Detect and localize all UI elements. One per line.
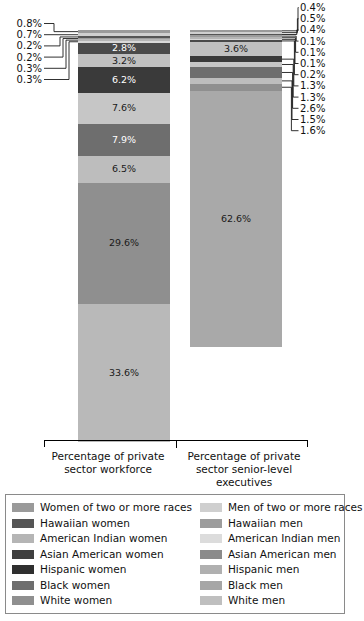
- bar-segment[interactable]: 3.2%: [78, 54, 170, 67]
- segment-value-label: 33.6%: [78, 368, 170, 378]
- segment-value-label: 3.6%: [190, 44, 282, 54]
- legend-swatch: [12, 565, 34, 574]
- plot-area: 2.8%3.2%6.2%7.6%7.9%6.5%29.6%33.6% 3.6%6…: [0, 0, 350, 450]
- segment-value-label: 29.6%: [78, 238, 170, 248]
- bar-segment[interactable]: 3.6%: [190, 42, 282, 57]
- bar-workforce[interactable]: 2.8%3.2%6.2%7.6%7.9%6.5%29.6%33.6%: [78, 30, 170, 440]
- xcat0-line1: Percentage of private: [52, 450, 165, 462]
- leader-line: [282, 41, 299, 75]
- legend-label: Women of two or more races: [40, 502, 192, 513]
- legend-label: American Indian men: [228, 533, 340, 544]
- legend-item[interactable]: Asian American women: [12, 547, 192, 563]
- callout-value-label: 0.2%: [0, 52, 42, 63]
- legend-column-women: Women of two or more racesHawaiian women…: [6, 500, 194, 613]
- leader-line: [282, 87, 299, 130]
- leader-line: [282, 39, 299, 63]
- legend-label: Black men: [228, 580, 283, 591]
- legend-label: American Indian women: [40, 533, 167, 544]
- bar-segment[interactable]: 2.8%: [78, 43, 170, 54]
- leader-line: [282, 19, 299, 33]
- bar-segment[interactable]: [190, 67, 282, 78]
- legend-swatch: [12, 596, 34, 605]
- legend-item[interactable]: White men: [200, 593, 363, 609]
- callout-value-label: 1.3%: [300, 92, 325, 103]
- legend-swatch: [12, 581, 34, 590]
- legend-swatch: [200, 550, 222, 559]
- legend-item[interactable]: Women of two or more races: [12, 500, 192, 516]
- legend-label: Hispanic women: [40, 564, 126, 575]
- legend-label: Asian American men: [228, 549, 337, 560]
- callout-value-label: 0.3%: [0, 74, 42, 85]
- callout-value-label: 0.7%: [0, 29, 42, 40]
- leader-line: [44, 37, 78, 46]
- segment-value-label: 2.8%: [78, 43, 170, 53]
- legend-item[interactable]: Hawaiian women: [12, 516, 192, 532]
- axis-tick-middle: [176, 441, 177, 448]
- legend-swatch: [12, 503, 34, 512]
- legend-label: Men of two or more races: [228, 502, 363, 513]
- segment-value-label: 3.2%: [78, 56, 170, 66]
- bar-segment[interactable]: 33.6%: [78, 304, 170, 442]
- leader-line: [282, 59, 299, 86]
- legend-item[interactable]: Men of two or more races: [200, 500, 363, 516]
- legend-swatch: [200, 519, 222, 528]
- legend-column-men: Men of two or more racesHawaiian menAmer…: [194, 500, 364, 613]
- segment-value-label: 7.6%: [78, 103, 170, 113]
- segment-value-label: 7.9%: [78, 135, 170, 145]
- bar-segment[interactable]: 29.6%: [78, 183, 170, 304]
- legend-item[interactable]: Black men: [200, 578, 363, 594]
- bar-segment[interactable]: [190, 84, 282, 91]
- callout-value-label: 0.2%: [0, 40, 42, 51]
- callout-value-label: 0.5%: [300, 13, 325, 24]
- legend-item[interactable]: American Indian women: [12, 531, 192, 547]
- callout-value-label: 1.3%: [300, 80, 325, 91]
- legend-swatch: [200, 503, 222, 512]
- legend-item[interactable]: Asian American men: [200, 547, 363, 563]
- legend-label: Black women: [40, 580, 110, 591]
- xcat1-line1: Percentage of private: [188, 450, 301, 462]
- legend-item[interactable]: Hawaiian men: [200, 516, 363, 532]
- legend-swatch: [200, 596, 222, 605]
- legend-item[interactable]: Hispanic women: [12, 562, 192, 578]
- legend-item[interactable]: White women: [12, 593, 192, 609]
- leader-line: [282, 36, 299, 41]
- legend-swatch: [12, 519, 34, 528]
- bar-segment[interactable]: 7.6%: [78, 93, 170, 124]
- callout-value-label: 1.5%: [300, 114, 325, 125]
- legend-item[interactable]: Hispanic men: [200, 562, 363, 578]
- callout-value-label: 0.3%: [0, 63, 42, 74]
- legend-swatch: [200, 565, 222, 574]
- leader-line: [282, 81, 299, 120]
- callout-value-label: 0.4%: [300, 24, 325, 35]
- bar-executives[interactable]: 3.6%62.6%: [190, 30, 282, 440]
- legend-label: Hawaiian men: [228, 518, 303, 529]
- legend-swatch: [12, 534, 34, 543]
- leader-line: [282, 72, 299, 108]
- leader-line: [44, 42, 78, 80]
- x-axis-label-executives: Percentage of private sector senior-leve…: [176, 450, 312, 489]
- legend-label: Hawaiian women: [40, 518, 130, 529]
- leader-line: [44, 40, 78, 68]
- callout-value-label: 0.1%: [300, 36, 325, 47]
- leader-line: [44, 39, 78, 58]
- legend-item[interactable]: Black women: [12, 578, 192, 594]
- bar-segment[interactable]: 6.2%: [78, 67, 170, 92]
- xcat0-line2: sector workforce: [64, 463, 152, 475]
- x-axis: [44, 440, 308, 447]
- bar-segment[interactable]: 62.6%: [190, 91, 282, 348]
- callout-value-label: 0.1%: [300, 58, 325, 69]
- segment-value-label: 6.2%: [78, 75, 170, 85]
- leader-line: [282, 30, 299, 35]
- xcat1-line3: executives: [216, 476, 272, 488]
- legend-swatch: [200, 534, 222, 543]
- callout-value-label: 1.6%: [300, 125, 325, 136]
- legend-label: Asian American women: [40, 549, 164, 560]
- bar-segment[interactable]: 6.5%: [78, 156, 170, 183]
- bar-segment[interactable]: 7.9%: [78, 124, 170, 156]
- legend-label: Hispanic men: [228, 564, 299, 575]
- callout-value-label: 0.1%: [300, 47, 325, 58]
- legend-swatch: [200, 581, 222, 590]
- legend-item[interactable]: American Indian men: [200, 531, 363, 547]
- x-axis-label-workforce: Percentage of private sector workforce: [40, 450, 176, 489]
